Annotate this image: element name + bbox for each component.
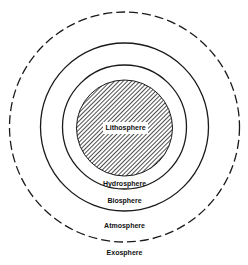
biosphere-label: Biosphere: [107, 197, 141, 205]
lithosphere-label: Lithosphere: [105, 124, 145, 132]
geosphere-diagram: Lithosphere Hydrosphere Biosphere Atmosp…: [0, 0, 248, 265]
exosphere-label: Exosphere: [107, 249, 143, 257]
atmosphere-label: Atmosphere: [104, 222, 145, 230]
hydrosphere-label: Hydrosphere: [103, 180, 146, 188]
